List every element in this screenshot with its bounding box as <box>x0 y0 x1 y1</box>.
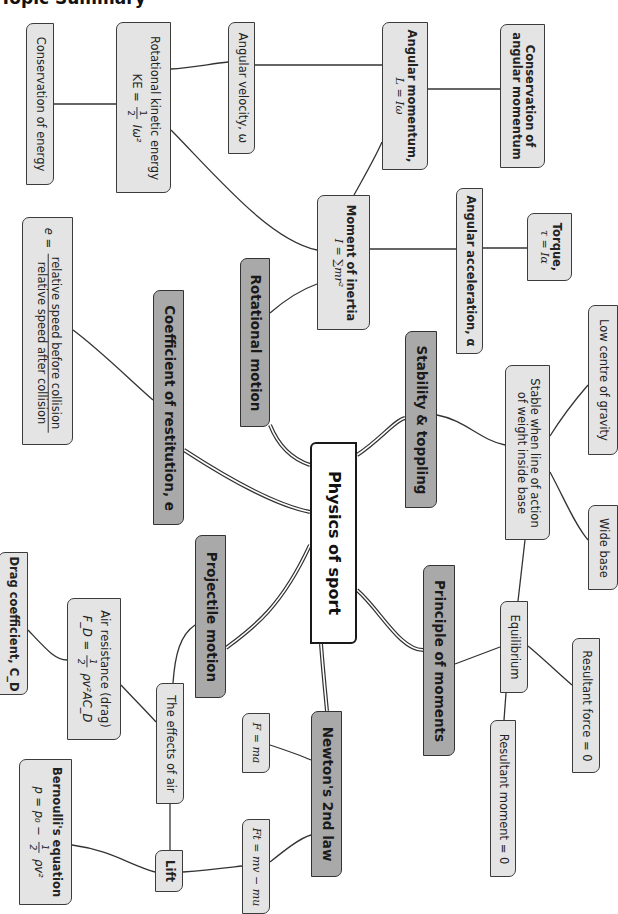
category-coefficient-of-restitution: Coefficient of restitution, e <box>153 290 184 525</box>
node-angular-momentum: Angular momentum, L = Iω <box>382 22 428 170</box>
fraction: 12 <box>126 107 148 119</box>
node-impulse: Ft = mv − mu <box>242 819 270 914</box>
node-low-centre-of-gravity: Low centre of gravity <box>588 305 618 455</box>
node-wide-base: Wide base <box>588 505 618 590</box>
node-angular-velocity: Angular velocity, ω <box>228 22 255 154</box>
category-projectile-motion: Projectile motion <box>195 535 226 698</box>
category-principle-of-moments: Principle of moments <box>423 565 455 756</box>
category-rotational-motion: Rotational motion <box>240 258 270 427</box>
rotational-ke-formula: KE = 12 Iω² <box>130 73 144 142</box>
bernoulli-formula: p = p₀ − 12 ρv² <box>32 786 46 877</box>
center-node-physics-of-sport: Physics of sport <box>310 442 357 644</box>
node-conservation-of-energy: Conservation of energy <box>26 23 54 185</box>
rotational-ke-label: Rotational kinetic energy <box>148 36 162 180</box>
node-conservation-of-angular-momentum: Conservation of angular momentum <box>500 24 545 168</box>
fraction: 12 <box>77 656 99 668</box>
node-effects-of-air: The effects of air <box>156 683 184 804</box>
node-resultant-moment: Resultant moment = 0 <box>490 720 516 877</box>
node-lift: Lift <box>155 850 183 892</box>
node-bernoulli: Bernoulli's equation p = p₀ − 12 ρv² <box>19 759 72 905</box>
node-air-resistance: Air resistance (drag) F_D = 12 ρv²AC_D <box>67 598 121 740</box>
category-newtons-2nd-law: Newton's 2nd law <box>311 711 342 877</box>
node-moment-of-inertia: Moment of inertia I = ∑mr² <box>317 195 370 330</box>
node-restitution-formula: e = relative speed before collisionrelat… <box>22 217 73 445</box>
fraction: 12 <box>28 842 50 854</box>
node-f-ma: F = ma <box>242 713 270 773</box>
node-equilibrium: Equilibrium <box>500 601 528 693</box>
node-drag-coefficient: Drag coefficient, C_D <box>0 552 28 695</box>
node-stable-when: Stable when line of action of weight ins… <box>505 365 550 540</box>
node-torque: Torque, τ = Iα <box>527 213 572 281</box>
air-resistance-formula: F_D = 12 ρv²AC_D <box>81 616 95 723</box>
node-resultant-force: Resultant force = 0 <box>572 638 600 773</box>
category-stability-toppling: Stability & toppling <box>405 331 437 508</box>
fraction: relative speed before collisionrelative … <box>34 254 61 433</box>
node-rotational-kinetic-energy: Rotational kinetic energy KE = 12 Iω² <box>116 22 171 193</box>
node-angular-acceleration: Angular acceleration, α <box>456 188 483 354</box>
